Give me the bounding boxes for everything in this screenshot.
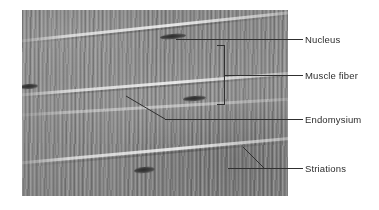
labeled-micrograph-figure: Nucleus Muscle fiber Endomysium Striatio…	[0, 0, 379, 210]
label-muscle-fiber: Muscle fiber	[305, 70, 358, 81]
label-endomysium: Endomysium	[305, 114, 361, 125]
leader-lines	[0, 0, 379, 210]
leader-line-endomysium-diagonal	[126, 96, 165, 119]
leader-line-striations-diagonal	[243, 147, 264, 168]
label-nucleus: Nucleus	[305, 34, 340, 45]
label-striations: Striations	[305, 163, 346, 174]
